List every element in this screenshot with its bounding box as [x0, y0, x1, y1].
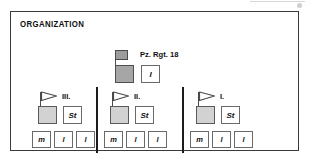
- battalion-roman-numeral: III.: [62, 92, 70, 101]
- company-box: m: [32, 131, 51, 148]
- pennant-flag-icon: [112, 91, 130, 104]
- company-box: l: [76, 131, 95, 148]
- battalion-unit-box-icon: [196, 106, 215, 124]
- battalion-unit-box-icon: [110, 106, 129, 124]
- page-title: ORGANIZATION: [20, 19, 84, 29]
- pennant-flag-icon: [40, 91, 58, 104]
- company-box: l: [126, 131, 145, 148]
- company-box: l: [234, 131, 253, 148]
- battalion-group-ii: II. St m l l: [110, 92, 188, 152]
- battalion-staff-box: St: [221, 106, 240, 124]
- battalion-staff-box: St: [63, 106, 82, 124]
- regiment-unit-box-icon: [115, 65, 134, 83]
- pennant-flag-icon: [198, 91, 216, 104]
- company-box: l: [148, 131, 167, 148]
- company-row: m l l: [190, 131, 253, 148]
- battalion-unit-box-icon: [38, 106, 57, 124]
- battalion-roman-numeral: II.: [134, 92, 140, 101]
- organization-diagram-root: ORGANIZATION Pz. Rgt. 18 I III. St m l l: [0, 0, 311, 164]
- company-box: l: [212, 131, 231, 148]
- page-artifact-line: [250, 1, 305, 2]
- regiment-label: Pz. Rgt. 18: [140, 50, 178, 59]
- company-box: m: [190, 131, 209, 148]
- company-box: m: [104, 131, 123, 148]
- page-artifact-dot: [297, 3, 302, 8]
- company-row: m l l: [32, 131, 95, 148]
- company-row: m l l: [104, 131, 167, 148]
- battalion-staff-box: St: [135, 106, 154, 124]
- battalion-roman-numeral: I.: [220, 92, 224, 101]
- regiment-flag-icon: [115, 50, 128, 60]
- organization-panel: ORGANIZATION Pz. Rgt. 18 I III. St m l l: [10, 11, 299, 151]
- battalion-group-i: I. St m l l: [196, 92, 274, 152]
- regiment-staff-box: I: [141, 65, 160, 83]
- company-box: l: [54, 131, 73, 148]
